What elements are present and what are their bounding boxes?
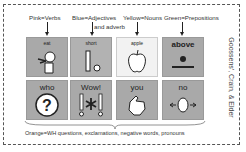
short-bar-icon <box>71 49 111 74</box>
cell-word: above <box>163 40 203 49</box>
cell-word: eat <box>27 40 67 46</box>
person-eating-icon <box>27 49 67 74</box>
arrow-green <box>182 22 183 33</box>
symbol-cell-apple[interactable]: apple <box>116 37 158 77</box>
face-arrows-icon <box>163 92 203 117</box>
symbol-cell-short[interactable]: short <box>70 37 112 77</box>
attribution-text: Goossens', Crain, & Elder <box>228 37 235 117</box>
arrow-pink <box>47 22 48 33</box>
symbol-cell-who[interactable]: who ? <box>26 80 68 120</box>
legend-blue-cont: and adverb <box>94 23 125 30</box>
attribution: Goossens', Crain, & Elder <box>222 22 240 132</box>
symbol-cell-wow[interactable]: Wow! <box>70 80 112 120</box>
head-question-icon: ? <box>27 92 67 117</box>
cell-word: no <box>163 83 203 92</box>
legend-green: Green=Prepositions <box>164 14 219 21</box>
exclamation-star-icon <box>71 92 111 117</box>
caption-orange: Orange=WH questions, exclamations, negat… <box>25 130 185 136</box>
legend-blue: Blue=Adjectives <box>72 14 116 21</box>
dot-above-line-icon <box>163 49 203 74</box>
curly-brace <box>24 120 206 130</box>
pointing-hand-icon <box>117 92 157 117</box>
symbol-cell-no[interactable]: no <box>162 80 204 120</box>
cell-word: apple <box>117 40 157 46</box>
symbol-cell-above[interactable]: above <box>162 37 204 77</box>
legend-pink: Pink=Verbs <box>29 14 60 21</box>
apple-icon <box>117 49 157 74</box>
legend-yellow: Yellow=Nouns <box>123 14 162 21</box>
symbol-cell-you[interactable]: you <box>116 80 158 120</box>
symbol-cell-eat[interactable]: eat <box>26 37 68 77</box>
arrow-blue <box>92 22 93 33</box>
cell-word: short <box>71 40 111 46</box>
svg-text:?: ? <box>42 97 52 114</box>
arrow-yellow <box>137 22 138 33</box>
